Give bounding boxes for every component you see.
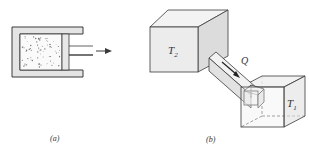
gas-particle xyxy=(39,39,40,40)
gas-particle xyxy=(27,41,28,42)
gas-particle xyxy=(51,65,52,66)
gas-particle xyxy=(33,36,34,37)
gas-particle xyxy=(45,38,46,39)
gas-particle xyxy=(58,46,59,47)
gas-particle xyxy=(38,64,39,65)
gas-particle xyxy=(49,46,50,47)
figure-b: T2 Q xyxy=(150,10,305,144)
gas-particle xyxy=(53,41,54,42)
gas-particle xyxy=(26,51,27,52)
gas-particle xyxy=(30,57,31,58)
gas-particle xyxy=(43,56,44,57)
gas-particle xyxy=(23,65,24,66)
gas-particle xyxy=(43,51,44,52)
gas-particle xyxy=(37,57,38,58)
caption-b: (b) xyxy=(206,135,216,144)
gas-particle xyxy=(37,51,38,52)
gas-particle xyxy=(56,44,57,45)
gas-particle xyxy=(31,59,32,60)
gas-particle xyxy=(49,44,50,45)
caption-a: (a) xyxy=(50,134,60,143)
gas-particle xyxy=(39,66,40,67)
gas-particle xyxy=(49,56,50,57)
gas-particle xyxy=(58,65,59,66)
gas-particle xyxy=(35,38,36,39)
gas-particle xyxy=(29,49,30,50)
gas-particle xyxy=(44,48,45,49)
heat-flow-label: Q xyxy=(241,55,249,66)
gas-particle xyxy=(42,46,43,47)
gas-particle xyxy=(59,50,60,51)
gas-particle xyxy=(51,47,52,48)
gas-particle xyxy=(23,47,24,48)
figure-canvas: (a) T2 xyxy=(0,0,309,154)
gas-particle xyxy=(50,56,51,57)
gas-particle xyxy=(22,47,23,48)
gas-particle xyxy=(24,64,25,65)
gas-particle xyxy=(39,50,40,51)
piston xyxy=(62,34,69,70)
gas-particle xyxy=(47,45,48,46)
gas-particle xyxy=(25,65,26,66)
gas-particle xyxy=(31,50,32,51)
gas-particle xyxy=(46,40,47,41)
gas-particle xyxy=(26,64,27,65)
gas-particle xyxy=(46,38,47,39)
gas-particle xyxy=(59,57,60,58)
gas-particle xyxy=(37,44,38,45)
gas-particle xyxy=(36,41,37,42)
gas-particle xyxy=(40,49,41,50)
gas-particle xyxy=(25,38,26,39)
gas-particle xyxy=(32,60,33,61)
gas-particle xyxy=(27,58,28,59)
gas-particle xyxy=(38,38,39,39)
gas-particle xyxy=(40,38,41,39)
motion-arrow-icon xyxy=(96,48,112,54)
gas-particle xyxy=(56,52,57,53)
gas-particle xyxy=(30,48,31,49)
cold-reservoir-front-face xyxy=(241,87,284,127)
gas-particle xyxy=(58,52,59,53)
gas-particle xyxy=(53,63,54,64)
figure-a: (a) xyxy=(12,27,112,143)
gas-particle xyxy=(50,60,51,61)
gas-particle xyxy=(42,46,43,47)
gas-particle xyxy=(55,51,56,52)
gas-particle xyxy=(47,63,48,64)
gas-particle xyxy=(26,50,27,51)
gas-particle xyxy=(25,36,26,37)
gas-particle xyxy=(22,46,23,47)
gas-particle xyxy=(40,54,41,55)
gas-particle xyxy=(22,60,23,61)
gas-particle xyxy=(40,64,41,65)
gas-particle xyxy=(38,48,39,49)
gas-particle xyxy=(30,45,31,46)
gas-particle xyxy=(47,41,48,42)
